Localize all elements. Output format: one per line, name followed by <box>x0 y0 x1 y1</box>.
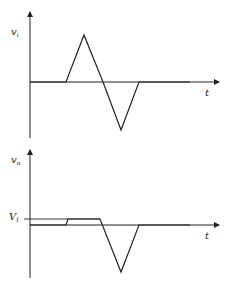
waveform-diagram <box>0 0 225 286</box>
bottom-y-label: vo <box>11 155 20 166</box>
top-plot <box>30 12 219 138</box>
bottom-plot <box>24 150 219 278</box>
output-waveform <box>30 219 190 272</box>
vf-label-sub: f <box>16 216 18 223</box>
vf-label: Vf <box>9 212 18 223</box>
top-y-label-sub: i <box>17 31 19 38</box>
bottom-x-label: t <box>205 231 209 241</box>
top-y-label: vi <box>11 27 19 38</box>
bottom-y-label-sub: o <box>17 159 21 166</box>
top-x-label: t <box>205 88 209 98</box>
